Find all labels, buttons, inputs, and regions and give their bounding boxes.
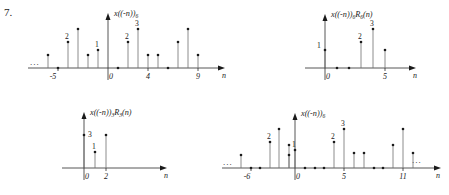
x-axis-arrow	[160, 165, 167, 170]
y-axis-arrow	[82, 112, 87, 119]
value-label: 3	[370, 19, 374, 28]
x-tick-label: 2	[104, 172, 108, 181]
plot-title: x((-n))6	[113, 9, 138, 19]
plot-bottom-right: x((-n))6 ... ...	[222, 104, 448, 186]
stem-group	[240, 128, 415, 170]
x-axis-arrow	[434, 165, 441, 170]
y-axis-arrow	[293, 113, 298, 120]
value-label: 3	[341, 119, 345, 128]
x-tick-label: 4	[146, 72, 150, 81]
figure-page: 7. x((-n))6 ...	[0, 0, 449, 195]
x-tick-label: 5	[383, 72, 387, 81]
value-label: 3	[135, 19, 139, 28]
x-axis-arrow	[218, 65, 225, 70]
x-tick-label: 0	[85, 172, 89, 181]
x-tick-label: 0	[296, 172, 300, 181]
x-axis-label: n	[164, 171, 168, 180]
value-label: 1	[92, 142, 96, 151]
x-tick-label: 9	[196, 72, 200, 81]
value-label: 2	[125, 32, 129, 41]
value-label: 2	[267, 132, 271, 141]
x-tick-label: -5	[50, 72, 57, 81]
value-label: 2	[331, 132, 335, 141]
plot-title: x((-n))6	[300, 109, 325, 119]
plot-title: x((-n))3R3(n)	[89, 108, 132, 118]
stem-group	[47, 28, 200, 70]
value-label: 1	[292, 140, 296, 149]
y-axis-arrow	[323, 14, 328, 21]
left-ellipsis: ...	[30, 57, 40, 67]
y-axis-arrow	[106, 13, 111, 20]
value-label: 1	[95, 40, 99, 49]
x-ticks	[58, 68, 198, 71]
x-axis-arrow	[409, 65, 416, 70]
x-tick-label: 11	[399, 172, 406, 181]
x-tick-label: 0	[326, 72, 330, 81]
value-label: 3	[88, 130, 92, 139]
value-label: 1	[317, 41, 321, 50]
plot-top-right: x((-n))6R6(n) 1 2 3 0 5 n	[305, 6, 440, 84]
x-ticks	[251, 168, 403, 171]
plot-top-left: x((-n))6 ... 2 1	[28, 4, 232, 84]
right-ellipsis: ...	[412, 155, 422, 165]
problem-number: 7.	[4, 6, 12, 18]
value-label: 2	[65, 32, 69, 41]
x-tick-label: -6	[244, 172, 251, 181]
x-axis-label: n	[436, 171, 440, 180]
stem-group	[324, 28, 387, 70]
left-ellipsis: ...	[223, 157, 233, 167]
x-axis-label: n	[222, 71, 226, 80]
x-tick-label: 0	[109, 72, 113, 81]
value-label: 2	[358, 32, 362, 41]
x-tick-label: 5	[342, 172, 346, 181]
plot-bottom-left: x((-n))3R3(n) 3 1 0 2 n	[62, 104, 197, 186]
plot-title: x((-n))6R6(n)	[330, 10, 373, 20]
x-axis-label: n	[413, 71, 417, 80]
